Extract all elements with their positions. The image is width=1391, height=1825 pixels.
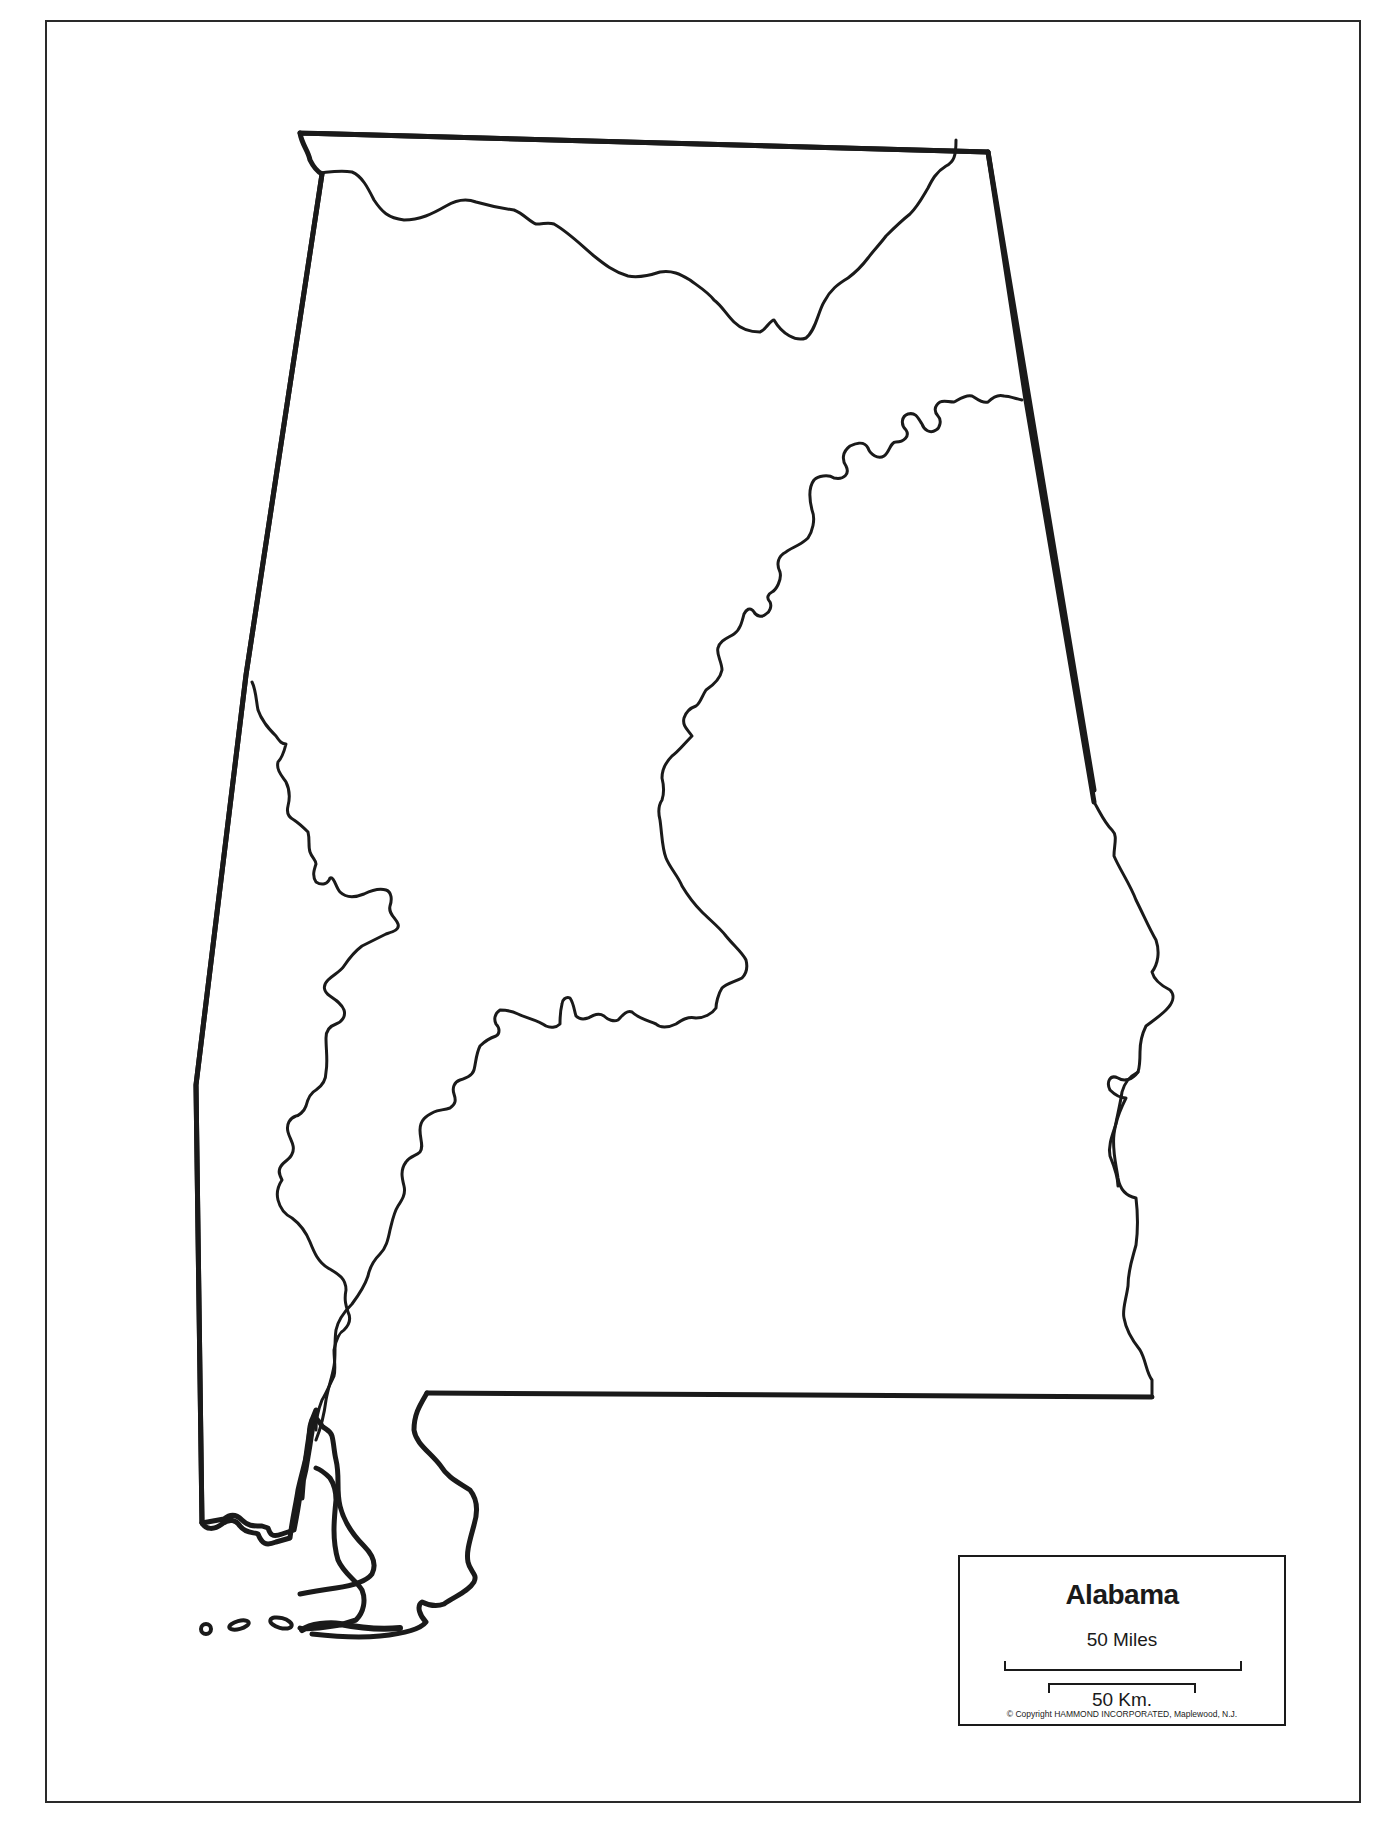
north-border — [300, 133, 988, 152]
state-border — [196, 133, 1094, 1629]
gulf-island-2 — [228, 1619, 249, 1632]
dauphin-island-west — [201, 1624, 211, 1634]
alabama-outline-map — [0, 0, 1391, 1825]
map-legend: Alabama 50 Miles 50 Km. © Copyright HAMM… — [958, 1555, 1286, 1726]
mobile-county-coast — [202, 1418, 374, 1594]
tombigbee-river — [252, 682, 398, 1430]
east-border — [988, 152, 1094, 802]
west-border — [196, 174, 322, 1523]
gulf-island-3 — [269, 1615, 293, 1630]
scale-bar-miles — [1004, 1661, 1242, 1671]
scale-km-label: 50 Km. — [960, 1689, 1284, 1711]
copyright-notice: © Copyright HAMMOND INCORPORATED, Maplew… — [960, 1709, 1284, 1719]
tennessee-river — [320, 140, 956, 339]
chattahoochee-river-border — [1094, 802, 1173, 1397]
scale-miles-label: 50 Miles — [960, 1629, 1284, 1651]
coosa-alabama-river — [316, 395, 1022, 1440]
florida-border — [427, 1393, 1152, 1397]
map-title: Alabama — [960, 1579, 1284, 1611]
